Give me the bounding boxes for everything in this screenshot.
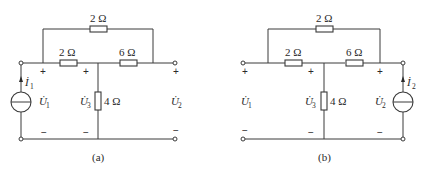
resistor-left-series [285,60,302,66]
resistor-right-series [346,60,363,66]
svg-text:−: − [377,127,383,138]
svg-text:1: 1 [46,101,50,110]
svg-text:+: + [308,66,314,77]
svg-text:3: 3 [87,101,91,110]
terminal [173,137,177,141]
terminal [19,137,23,141]
svg-text:+: + [40,66,46,77]
svg-text:1: 1 [248,101,252,110]
svg-text:2: 2 [382,101,386,110]
svg-text:3: 3 [312,101,316,110]
resistor-label: 2 Ω [59,46,75,58]
svg-text:−: − [173,125,179,136]
circuit-a: 2 Ω 2 Ω 6 Ω 4 Ω İ 1 + U̇ 1 − + U̇ 3 − + … [11,12,182,164]
svg-text:+: + [83,66,89,77]
terminal [241,61,245,65]
circuit-b: 2 Ω 2 Ω 6 Ω 4 Ω İ 2 + U̇ 1 − + U̇ 3 − + … [241,12,416,164]
circuit-figure: 2 Ω 2 Ω 6 Ω 4 Ω İ 1 + U̇ 1 − + U̇ 3 − + … [0,0,421,169]
resistor-shunt [95,92,101,110]
svg-text:−: − [242,125,248,136]
terminal [401,61,405,65]
resistor-label: 2 Ω [316,12,332,24]
terminal [19,61,23,65]
resistor-label: 2 Ω [285,46,301,58]
terminal [241,137,245,141]
svg-text:−: − [83,127,89,138]
terminal [401,137,405,141]
terminal [173,61,177,65]
resistor-left-series [60,60,77,66]
svg-text:1: 1 [30,82,34,91]
svg-text:+: + [377,66,383,77]
svg-text:2: 2 [178,101,182,110]
resistor-bridge [316,26,333,32]
svg-text:−: − [308,127,314,138]
svg-text:−: − [41,127,47,138]
resistor-label: 6 Ω [119,46,135,58]
resistor-label: 4 Ω [330,95,346,107]
resistor-bridge [90,26,107,32]
svg-text:2: 2 [412,82,416,91]
svg-text:+: + [173,66,179,77]
caption-a: (a) [92,151,105,164]
resistor-shunt [321,92,327,110]
resistor-label: 2 Ω [90,12,106,24]
caption-b: (b) [318,151,331,164]
svg-text:+: + [242,66,248,77]
resistor-right-series [120,60,137,66]
resistor-label: 6 Ω [346,46,362,58]
resistor-label: 4 Ω [104,95,120,107]
